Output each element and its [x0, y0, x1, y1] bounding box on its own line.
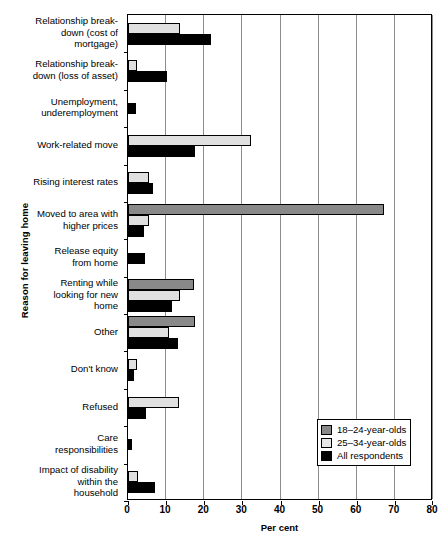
x-tick-label: 30 — [221, 504, 261, 515]
legend-swatch-25-34 — [321, 438, 332, 448]
y-axis-tick — [124, 127, 128, 128]
legend-item[interactable]: 25–34-year-olds — [321, 436, 406, 449]
bar — [128, 439, 132, 450]
bar — [128, 172, 149, 183]
y-axis-tick — [124, 165, 128, 166]
bar — [128, 146, 195, 157]
gridline — [280, 15, 281, 499]
bar — [128, 301, 172, 312]
category-label: Other — [0, 326, 118, 338]
gridline — [165, 15, 166, 499]
category-label: Care responsibilities — [0, 432, 118, 455]
bar — [128, 183, 153, 194]
x-axis-tick-labels: 01020304050607080 — [127, 504, 432, 518]
legend-label: 18–24-year-olds — [337, 424, 406, 435]
x-tick-label: 80 — [412, 504, 446, 515]
bar — [128, 397, 179, 408]
x-tick-label: 0 — [107, 504, 147, 515]
category-label: Moved to area with higher prices — [0, 208, 118, 231]
category-label: Relationship break- down (cost of mortga… — [0, 15, 118, 50]
x-tick-label: 20 — [183, 504, 223, 515]
y-axis-tick — [124, 90, 128, 91]
chart-legend: 18–24-year-olds25–34-year-oldsAll respon… — [317, 419, 411, 466]
y-axis-tick — [124, 314, 128, 315]
category-axis-labels: Relationship break- down (cost of mortga… — [0, 14, 123, 500]
y-axis-tick — [124, 239, 128, 240]
x-tick-label: 70 — [374, 504, 414, 515]
y-axis-tick — [124, 501, 128, 502]
bar — [128, 103, 136, 114]
category-label: Release equity from home — [0, 245, 118, 268]
gridline — [241, 15, 242, 499]
y-axis-tick — [124, 202, 128, 203]
bar — [128, 215, 149, 226]
x-tick-label: 10 — [145, 504, 185, 515]
category-label: Unemployment, underemployment — [0, 96, 118, 119]
y-axis-tick — [124, 464, 128, 465]
category-label: Relationship break- down (loss of asset) — [0, 58, 118, 81]
bar — [128, 71, 167, 82]
bar — [128, 370, 134, 381]
x-axis-title: Per cent — [127, 522, 432, 533]
y-axis-tick — [124, 351, 128, 352]
legend-swatch-18-24 — [321, 425, 332, 435]
bar — [128, 23, 180, 34]
x-tick-label: 40 — [260, 504, 300, 515]
bar — [128, 482, 155, 493]
category-label: Rising interest rates — [0, 176, 118, 188]
bar — [128, 34, 211, 45]
bar — [128, 471, 138, 482]
legend-swatch-all — [321, 451, 332, 461]
category-label: Don't know — [0, 363, 118, 375]
x-tick-label: 60 — [336, 504, 376, 515]
bar — [128, 135, 251, 146]
bar — [128, 327, 169, 338]
bar — [128, 204, 384, 215]
bar — [128, 253, 145, 264]
bar — [128, 290, 180, 301]
gridline — [432, 15, 433, 499]
bar — [128, 60, 137, 71]
category-label: Refused — [0, 401, 118, 413]
y-axis-tick — [124, 426, 128, 427]
bar — [128, 226, 144, 237]
bar — [128, 338, 178, 349]
category-label: Renting while looking for new home — [0, 277, 118, 312]
y-axis-tick — [124, 52, 128, 53]
y-axis-tick — [124, 277, 128, 278]
y-axis-tick — [124, 389, 128, 390]
category-label: Work-related move — [0, 139, 118, 151]
bar — [128, 279, 194, 290]
gridline — [203, 15, 204, 499]
legend-label: 25–34-year-olds — [337, 437, 406, 448]
legend-label: All respondents — [337, 450, 403, 461]
legend-item[interactable]: 18–24-year-olds — [321, 423, 406, 436]
x-tick-label: 50 — [298, 504, 338, 515]
bar — [128, 316, 195, 327]
category-label: Impact of disability within the househol… — [0, 464, 118, 499]
bar-chart: Reason for leaving home Relationship bre… — [0, 0, 446, 554]
bar — [128, 408, 146, 419]
bar — [128, 359, 137, 370]
legend-item[interactable]: All respondents — [321, 449, 406, 462]
